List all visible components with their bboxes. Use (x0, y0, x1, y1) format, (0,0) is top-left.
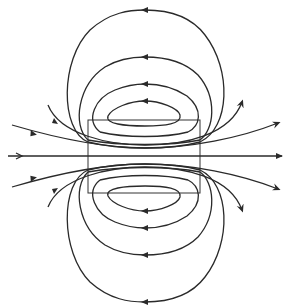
open-field-line-upper-inner (48, 102, 242, 145)
arrow-icon (141, 81, 148, 87)
field-loop-bottom-4 (108, 186, 180, 211)
field-loop-top-4 (108, 101, 180, 126)
open-lines-bottom (12, 164, 278, 210)
arrow-icon (141, 54, 148, 60)
arrow-icon (276, 153, 283, 159)
field-line (100, 132, 188, 137)
field-line (100, 176, 188, 181)
arrow-icon (141, 299, 148, 305)
open-lines-top (12, 102, 278, 148)
field-loop-bottom-3 (93, 180, 199, 228)
arrow-icon (141, 208, 148, 214)
arrow-icon (141, 252, 148, 258)
arrow-icon (141, 225, 148, 231)
field-loop-top-3 (93, 84, 199, 132)
field-loop-top-2 (79, 57, 212, 140)
open-field-line-lower-inner (48, 167, 242, 210)
arrow-icon (141, 98, 148, 104)
field-loop-bottom-2 (79, 172, 212, 255)
field-line-diagram (0, 0, 289, 306)
arrow-icon (141, 7, 148, 13)
